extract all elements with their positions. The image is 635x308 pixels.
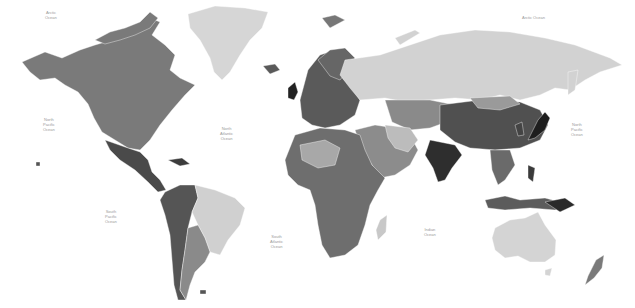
australia [492, 212, 556, 262]
iceland [263, 64, 280, 74]
ocean-label-north-atlantic: North Atlantic Ocean [220, 126, 233, 141]
tasmania [545, 268, 552, 276]
caribbean [168, 158, 190, 166]
ocean-label-north-pacific-west: North Pacific Ocean [43, 117, 55, 132]
ocean-label-indian: Indian Ocean [424, 227, 436, 237]
greenland [188, 6, 268, 80]
ocean-label-arctic-ne: Arctic Ocean [522, 15, 545, 20]
world-map: Arctic Ocean Arctic Ocean North Pacific … [0, 0, 635, 308]
philippines [528, 165, 535, 182]
southeast-asia [490, 150, 515, 185]
madagascar [376, 215, 387, 240]
ocean-label-north-pacific-east: North Pacific Ocean [571, 122, 583, 137]
ocean-label-south-pacific: South Pacific Ocean [105, 209, 117, 224]
falkland-islands [200, 290, 206, 294]
united-kingdom [288, 82, 298, 100]
russia [340, 30, 622, 102]
hawaii [36, 162, 40, 166]
ocean-label-south-atlantic: South Atlantic Ocean [270, 234, 283, 249]
svalbard [322, 15, 345, 28]
ocean-label-arctic-nw: Arctic Ocean [45, 10, 57, 20]
map-canvas [0, 0, 635, 308]
india [425, 140, 462, 182]
new-zealand [585, 255, 604, 285]
